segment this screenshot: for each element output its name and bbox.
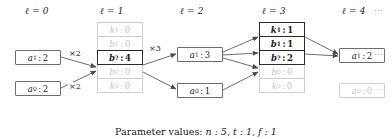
node-l3-k0[interactable]: k0:0 bbox=[259, 78, 305, 93]
node-l3-b-unknown[interactable]: b?:2 bbox=[259, 50, 305, 65]
node-value: 1 bbox=[287, 25, 293, 35]
node-l3-b0[interactable]: b0:0 bbox=[259, 64, 305, 79]
stack-level-1: k1:0 b1:0 b?:4 b0:0 k0:0 bbox=[97, 22, 143, 93]
node-l1-b0[interactable]: b0:0 bbox=[97, 64, 143, 79]
node-value: 0 bbox=[125, 81, 131, 91]
node-l1-k0[interactable]: k0:0 bbox=[97, 78, 143, 93]
node-l3-b1[interactable]: b1:1 bbox=[259, 36, 305, 51]
stack-level-3: k1:1 b1:1 b?:2 b0:0 k0:0 bbox=[259, 22, 305, 93]
node-value: 0 bbox=[287, 81, 293, 91]
node-value: 1 bbox=[287, 39, 293, 49]
node-value: 4 bbox=[125, 53, 131, 63]
trellis-diagram: ℓ = 0 ℓ = 1 ℓ = 2 ℓ = 3 ℓ = 4 a1:2 a0:2 … bbox=[0, 0, 392, 139]
node-l1-b1[interactable]: b1:0 bbox=[97, 36, 143, 51]
edge-label-a0-multiplier: ×2 bbox=[68, 82, 82, 91]
node-value: 0 bbox=[125, 39, 131, 49]
node-l1-b-unknown[interactable]: b?:4 bbox=[97, 50, 143, 65]
edge-label-a1-multiplier: ×2 bbox=[68, 49, 82, 58]
node-value: 0 bbox=[287, 67, 293, 77]
node-value: 2 bbox=[287, 53, 293, 63]
edge-layer bbox=[0, 0, 392, 139]
node-l1-k1[interactable]: k1:0 bbox=[97, 22, 143, 37]
node-value: 0 bbox=[125, 25, 131, 35]
node-l3-k1[interactable]: k1:1 bbox=[259, 22, 305, 37]
node-value: 0 bbox=[125, 67, 131, 77]
edge-label-b-multiplier: ×3 bbox=[148, 44, 162, 53]
